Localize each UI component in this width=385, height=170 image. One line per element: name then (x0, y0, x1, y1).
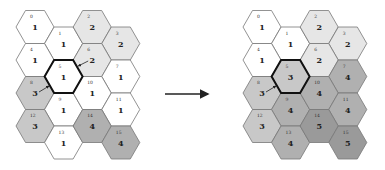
hex-index-label: 5 (59, 64, 62, 69)
hex-value-label: 3 (32, 121, 38, 131)
hex-value-label: 3 (259, 121, 265, 131)
hex-value-label: 5 (316, 121, 322, 131)
hex-index-label: 12 (257, 113, 263, 118)
right-hex-grid: 01112232415362748394104114123134145155 (243, 11, 367, 160)
hex-value-label: 2 (118, 39, 124, 49)
hex-index-label: 2 (314, 14, 317, 19)
hex-value-label: 3 (288, 72, 294, 82)
hex-value-label: 1 (89, 88, 95, 98)
hex-value-label: 2 (316, 55, 322, 65)
hex-index-label: 1 (286, 31, 289, 36)
hex-index-label: 4 (257, 47, 260, 52)
hex-diagram-canvas: 01112232415162718391101111123131144154 0… (0, 0, 385, 170)
hex-index-label: 3 (116, 31, 119, 36)
hex-index-label: 13 (286, 130, 292, 135)
hex-index-label: 15 (343, 130, 349, 135)
hex-index-label: 6 (314, 47, 317, 52)
hex-index-label: 0 (257, 14, 260, 19)
hex-index-label: 1 (59, 31, 62, 36)
hex-index-label: 9 (59, 97, 62, 102)
hex-value-label: 1 (61, 105, 67, 115)
hex-value-label: 1 (61, 138, 67, 148)
hex-index-label: 11 (116, 97, 122, 102)
hex-index-label: 3 (343, 31, 346, 36)
hex-index-label: 13 (59, 130, 65, 135)
hex-index-label: 5 (286, 64, 289, 69)
hex-index-label: 6 (87, 47, 90, 52)
hex-value-label: 2 (89, 55, 95, 65)
hex-value-label: 4 (316, 88, 322, 98)
hex-value-label: 3 (32, 88, 38, 98)
hex-index-label: 7 (343, 64, 346, 69)
hex-index-label: 10 (87, 80, 93, 85)
hex-value-label: 5 (345, 138, 351, 148)
hex-value-label: 1 (61, 39, 67, 49)
hex-value-label: 2 (89, 22, 95, 32)
hex-value-label: 1 (32, 22, 38, 32)
hex-index-label: 2 (87, 14, 90, 19)
hex-index-label: 8 (30, 80, 33, 85)
hex-index-label: 12 (30, 113, 36, 118)
hex-value-label: 1 (118, 72, 124, 82)
hex-value-label: 1 (259, 55, 265, 65)
hex-value-label: 1 (118, 105, 124, 115)
hex-value-label: 4 (288, 138, 294, 148)
hex-index-label: 8 (257, 80, 260, 85)
left-hex-grid: 01112232415162718391101111123131144154 (16, 11, 140, 160)
hex-index-label: 7 (116, 64, 119, 69)
hex-index-label: 14 (314, 113, 320, 118)
hex-value-label: 2 (316, 22, 322, 32)
hex-value-label: 4 (345, 105, 351, 115)
hex-value-label: 4 (288, 105, 294, 115)
hex-value-label: 4 (89, 121, 95, 131)
hex-index-label: 15 (116, 130, 122, 135)
hex-index-label: 9 (286, 97, 289, 102)
hex-value-label: 4 (118, 138, 124, 148)
hex-value-label: 2 (345, 39, 351, 49)
hex-index-label: 14 (87, 113, 93, 118)
hex-value-label: 1 (288, 39, 294, 49)
hex-value-label: 1 (61, 72, 67, 82)
hex-index-label: 4 (30, 47, 33, 52)
hex-value-label: 3 (259, 88, 265, 98)
hex-index-label: 10 (314, 80, 320, 85)
hex-index-label: 11 (343, 97, 349, 102)
hex-index-label: 0 (30, 14, 33, 19)
hex-value-label: 4 (345, 72, 351, 82)
hex-value-label: 1 (259, 22, 265, 32)
hex-value-label: 1 (32, 55, 38, 65)
